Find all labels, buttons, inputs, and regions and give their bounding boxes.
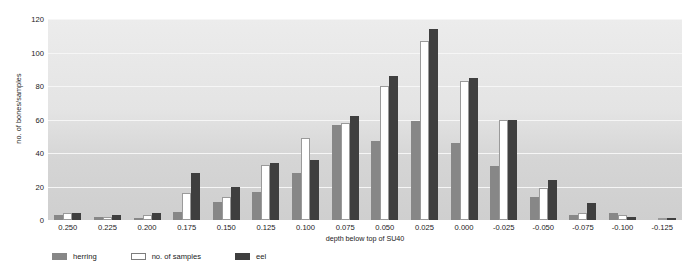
bar-eel	[508, 120, 517, 221]
bar-group	[207, 19, 247, 220]
bar-no-of-samples	[460, 81, 469, 220]
bar-eel	[627, 217, 636, 220]
bar-eel	[350, 116, 359, 220]
bar-no-of-samples	[341, 123, 350, 220]
legend-label: eel	[256, 252, 266, 261]
bar-herring	[451, 143, 460, 220]
legend-swatch-icon	[131, 253, 146, 260]
bar-no-of-samples	[182, 193, 191, 220]
bar-no-of-samples	[222, 197, 231, 220]
bar-no-of-samples	[539, 188, 548, 220]
bar-eel	[389, 76, 398, 220]
bar-herring	[94, 217, 103, 220]
legend-entry: eel	[235, 252, 266, 261]
bar-group	[325, 19, 365, 220]
y-axis-tick-labels: 020406080100120	[10, 16, 44, 222]
bar-group	[48, 19, 88, 220]
bar-eel	[429, 29, 438, 220]
bar-herring	[173, 212, 182, 220]
bar-group	[642, 19, 682, 220]
bar-herring	[371, 141, 380, 220]
bar-no-of-samples	[658, 218, 667, 220]
bar-herring	[134, 218, 143, 220]
bar-group	[365, 19, 405, 220]
bar-herring	[609, 213, 618, 220]
bar-no-of-samples	[143, 215, 152, 220]
bar-no-of-samples	[103, 217, 112, 220]
bar-group	[563, 19, 603, 220]
bar-herring	[411, 121, 420, 220]
bar-group	[88, 19, 128, 220]
y-tick-label: 120	[10, 15, 44, 24]
bar-group	[405, 19, 445, 220]
bar-no-of-samples	[499, 120, 508, 221]
bar-group	[524, 19, 564, 220]
bar-group	[444, 19, 484, 220]
x-axis-title: depth below top of SU40	[48, 234, 682, 243]
legend-swatch-icon	[52, 253, 67, 260]
y-tick-label: 100	[10, 48, 44, 57]
bar-no-of-samples	[301, 138, 310, 220]
bar-herring	[530, 197, 539, 220]
bar-no-of-samples	[578, 213, 587, 220]
bar-herring	[213, 202, 222, 220]
bar-group	[127, 19, 167, 220]
legend-swatch-icon	[235, 253, 250, 260]
legend-entry: herring	[52, 252, 97, 261]
bar-eel	[152, 213, 161, 220]
bar-group	[286, 19, 326, 220]
bar-herring	[490, 166, 499, 220]
legend-label: no. of samples	[152, 252, 201, 261]
bars-layer	[48, 19, 682, 220]
bar-eel	[270, 163, 279, 220]
legend: herringno. of sampleseel	[52, 252, 266, 261]
bar-eel	[112, 215, 121, 220]
bar-eel	[548, 180, 557, 220]
bar-herring	[54, 215, 63, 220]
y-tick-label: 20	[10, 182, 44, 191]
y-tick-label: 40	[10, 149, 44, 158]
bar-group	[167, 19, 207, 220]
bar-no-of-samples	[261, 165, 270, 220]
bar-herring	[332, 125, 341, 220]
bar-chart: no. of bones/samples 020406080100120 0.2…	[0, 0, 689, 276]
bar-herring	[292, 173, 301, 220]
bar-eel	[231, 187, 240, 221]
bar-no-of-samples	[380, 86, 389, 220]
legend-entry: no. of samples	[131, 252, 201, 261]
bar-group	[603, 19, 643, 220]
plot-area	[48, 19, 682, 220]
bar-group	[246, 19, 286, 220]
bar-eel	[72, 213, 81, 220]
bar-herring	[569, 215, 578, 220]
bar-no-of-samples	[618, 215, 627, 220]
bar-herring	[252, 192, 261, 220]
bar-eel	[667, 218, 676, 220]
bar-eel	[469, 78, 478, 220]
bar-no-of-samples	[420, 41, 429, 220]
bar-no-of-samples	[63, 213, 72, 220]
bar-group	[484, 19, 524, 220]
bar-eel	[191, 173, 200, 220]
bar-eel	[310, 160, 319, 220]
bar-eel	[587, 203, 596, 220]
y-tick-label: 60	[10, 115, 44, 124]
y-tick-label: 80	[10, 82, 44, 91]
legend-label: herring	[73, 252, 97, 261]
y-tick-label: 0	[10, 216, 44, 225]
